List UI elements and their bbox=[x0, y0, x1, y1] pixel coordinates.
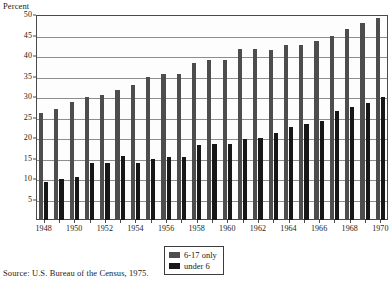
x-axis-tick-mark bbox=[44, 220, 45, 223]
bar-6-17-only bbox=[70, 102, 74, 220]
bar-under-6 bbox=[366, 103, 370, 220]
bar-group-container bbox=[36, 15, 388, 220]
bar-under-6 bbox=[335, 111, 339, 220]
x-axis-tick-label: 1950 bbox=[66, 224, 82, 233]
x-axis-tick-label: 1958 bbox=[188, 224, 204, 233]
x-axis-tick-mark bbox=[273, 220, 274, 223]
bar-under-6 bbox=[304, 124, 308, 220]
bar-6-17-only bbox=[54, 109, 58, 220]
x-axis-tick-label: 1948 bbox=[35, 224, 51, 233]
x-axis-tick-mark bbox=[166, 220, 167, 223]
x-axis-tick-label: 1966 bbox=[311, 224, 327, 233]
bar-under-6 bbox=[258, 138, 262, 220]
legend-label-6-17-only: 6-17 only bbox=[184, 250, 217, 260]
x-axis-tick-label: 1964 bbox=[280, 224, 296, 233]
bar-under-6 bbox=[121, 156, 125, 220]
x-axis-tick-label: 1956 bbox=[158, 224, 174, 233]
bar-under-6 bbox=[136, 163, 140, 220]
y-axis-tick-label: 50 bbox=[24, 11, 32, 19]
x-axis-tick-mark bbox=[334, 220, 335, 223]
bar-group bbox=[327, 15, 342, 220]
bar-under-6 bbox=[320, 121, 324, 220]
legend-label-under-6: under 6 bbox=[184, 261, 210, 271]
bar-under-6 bbox=[197, 145, 201, 220]
bar-under-6 bbox=[228, 144, 232, 220]
legend-swatch-icon-under-6 bbox=[169, 263, 180, 269]
bar-group bbox=[67, 15, 82, 220]
x-axis-tick-label: 1962 bbox=[250, 224, 266, 233]
x-axis-tick-mark bbox=[380, 220, 381, 223]
bar-6-17-only bbox=[161, 74, 165, 220]
bar-group bbox=[82, 15, 97, 220]
bar-under-6 bbox=[75, 177, 79, 220]
bar-under-6 bbox=[243, 139, 247, 220]
y-axis-tick-label: 10 bbox=[24, 175, 32, 183]
bar-6-17-only bbox=[376, 18, 380, 220]
x-axis-tick-mark bbox=[135, 220, 136, 223]
bar-6-17-only bbox=[330, 36, 334, 221]
bar-group bbox=[174, 15, 189, 220]
legend-swatch-icon-6-17-only bbox=[169, 252, 180, 258]
y-axis-tick-label: 25 bbox=[24, 114, 32, 122]
y-axis-tick-label: 35 bbox=[24, 73, 32, 81]
x-axis-tick-mark bbox=[289, 220, 290, 223]
bar-under-6 bbox=[59, 179, 63, 220]
x-axis-tick-label: 1960 bbox=[219, 224, 235, 233]
bar-group bbox=[51, 15, 66, 220]
bar-group bbox=[36, 15, 51, 220]
bar-6-17-only bbox=[192, 63, 196, 220]
bar-group bbox=[158, 15, 173, 220]
bar-6-17-only bbox=[314, 41, 318, 220]
bar-group bbox=[97, 15, 112, 220]
bar-6-17-only bbox=[100, 95, 104, 220]
bar-group bbox=[128, 15, 143, 220]
y-axis-tick-label: 20 bbox=[24, 134, 32, 142]
x-axis-tick-mark bbox=[243, 220, 244, 223]
x-axis-tick-mark bbox=[105, 220, 106, 223]
bar-under-6 bbox=[381, 97, 385, 220]
bar-group bbox=[235, 15, 250, 220]
bar-6-17-only bbox=[253, 49, 257, 220]
labor-force-participation-bar-chart: Percent 5045403530252015105 194819501952… bbox=[0, 0, 392, 282]
y-axis-tick-label: 15 bbox=[24, 155, 32, 163]
legend-item-6-17-only: 6-17 only bbox=[169, 249, 217, 260]
y-axis-tick-label: 45 bbox=[24, 32, 32, 40]
bar-group bbox=[266, 15, 281, 220]
bar-group bbox=[357, 15, 372, 220]
bar-group bbox=[311, 15, 326, 220]
bar-6-17-only bbox=[177, 74, 181, 220]
bar-6-17-only bbox=[238, 49, 242, 220]
bar-6-17-only bbox=[223, 60, 227, 220]
bar-6-17-only bbox=[207, 60, 211, 220]
bar-under-6 bbox=[151, 159, 155, 220]
x-axis-tick-mark bbox=[74, 220, 75, 223]
x-axis-tick-mark bbox=[365, 220, 366, 223]
x-axis-tick-mark bbox=[197, 220, 198, 223]
bar-group bbox=[250, 15, 265, 220]
bar-under-6 bbox=[350, 107, 354, 220]
bar-under-6 bbox=[105, 163, 109, 220]
bar-group bbox=[342, 15, 357, 220]
x-axis-tick-mark bbox=[212, 220, 213, 223]
y-axis-tick-label: 30 bbox=[24, 93, 32, 101]
x-axis-tick-mark bbox=[59, 220, 60, 223]
bar-group bbox=[281, 15, 296, 220]
bar-group bbox=[113, 15, 128, 220]
bar-group bbox=[296, 15, 311, 220]
bar-6-17-only bbox=[131, 85, 135, 220]
bar-group bbox=[373, 15, 388, 220]
y-axis-tick-label: 40 bbox=[24, 52, 32, 60]
bar-under-6 bbox=[90, 163, 94, 220]
x-axis-tick-label: 1968 bbox=[342, 224, 358, 233]
bar-6-17-only bbox=[85, 97, 89, 220]
legend-item-under-6: under 6 bbox=[169, 260, 217, 271]
chart-legend: 6-17 only under 6 bbox=[164, 246, 224, 275]
bar-6-17-only bbox=[39, 113, 43, 220]
x-axis-tick-mark bbox=[120, 220, 121, 223]
x-axis-tick-mark bbox=[258, 220, 259, 223]
x-axis-tick-mark bbox=[350, 220, 351, 223]
bar-under-6 bbox=[274, 133, 278, 220]
x-axis-tick-mark bbox=[90, 220, 91, 223]
bar-under-6 bbox=[44, 182, 48, 220]
bar-under-6 bbox=[289, 127, 293, 220]
